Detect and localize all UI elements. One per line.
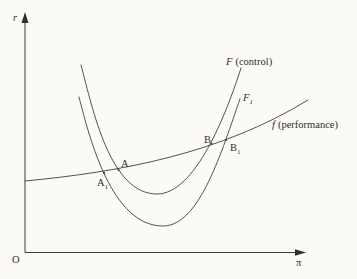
label-point-B: B — [204, 134, 211, 145]
label-curve-F-control: F(control) — [225, 56, 273, 68]
y-axis-label: r — [13, 12, 18, 23]
x-axis-arrow-icon — [295, 249, 306, 256]
label-curve-F1: F1 — [242, 92, 253, 106]
label-point-A: A — [121, 158, 129, 169]
label-F-symbol: F — [225, 56, 233, 67]
x-axis-label: π — [296, 257, 302, 268]
y-axis-arrow-icon — [22, 12, 29, 23]
label-curve-f-performance: f(performance) — [272, 119, 338, 131]
label-F-paren: (control) — [235, 56, 272, 68]
label-f-paren: (performance) — [278, 119, 339, 131]
axes — [22, 12, 307, 256]
curve-F1 — [79, 97, 240, 226]
label-B1-main: B — [230, 142, 237, 153]
curve-f-performance — [25, 100, 308, 181]
intersection-dot-A1 — [103, 172, 105, 174]
diagram-canvas: r O π F(control) F1 f(performance) A A1 … — [0, 0, 357, 279]
label-F1-subscript: 1 — [249, 98, 253, 106]
label-B1-subscript: 1 — [237, 148, 241, 156]
intersection-dot-A — [117, 169, 119, 171]
label-f-symbol: f — [272, 119, 277, 130]
label-A1-subscript: 1 — [105, 183, 109, 191]
intersection-dot-B1 — [225, 139, 227, 141]
economics-diagram: r O π F(control) F1 f(performance) A A1 … — [0, 0, 357, 279]
label-point-B1: B1 — [230, 142, 241, 156]
origin-label: O — [12, 254, 20, 265]
